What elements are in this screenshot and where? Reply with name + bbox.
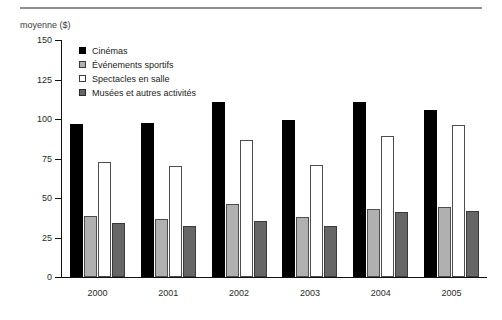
- x-axis-line: [61, 277, 487, 278]
- y-axis-tick-label-text: 0: [22, 273, 52, 282]
- y-axis-tick-label: 25: [18, 234, 52, 243]
- y-axis-tick-mark: [55, 80, 62, 81]
- y-axis-unit-caption: moyenne ($): [20, 20, 71, 30]
- y-axis-tick-label: 75: [18, 155, 52, 164]
- bar: [452, 125, 465, 277]
- x-axis-tick-label: 2002: [214, 288, 264, 298]
- y-axis-tick-label: 100: [18, 115, 52, 124]
- bar: [70, 124, 83, 277]
- x-axis-tick-label: 2004: [356, 288, 406, 298]
- legend-swatch-icon: [79, 75, 86, 82]
- bar: [155, 219, 168, 277]
- y-axis-tick-mark: [55, 119, 62, 120]
- y-axis-tick-label: 0: [18, 273, 52, 282]
- bar: [98, 162, 111, 277]
- bar: [254, 221, 267, 277]
- legend-swatch-icon: [79, 61, 86, 68]
- bar: [310, 165, 323, 277]
- legend-item-label: Événements sportifs: [92, 60, 174, 70]
- legend-item: Spectacles en salle: [79, 72, 196, 85]
- y-axis-tick-label-text: 50: [22, 194, 52, 203]
- y-axis-tick-mark: [55, 238, 62, 239]
- legend-item: Cinémas: [79, 44, 196, 57]
- y-axis-tick-label: 150: [18, 36, 52, 45]
- legend-item: Événements sportifs: [79, 58, 196, 71]
- legend-item: Musées et autres activités: [79, 86, 196, 99]
- bar: [169, 166, 182, 277]
- bar: [395, 212, 408, 277]
- bar: [296, 217, 309, 277]
- legend-item-label: Cinémas: [92, 46, 128, 56]
- y-axis-tick-label-text: 100: [22, 115, 52, 124]
- y-axis-tick-label-text: 125: [22, 76, 52, 85]
- chart-figure: moyenne ($) 0255075100125150 20002001200…: [0, 0, 502, 320]
- y-axis-tick-label-text: 25: [22, 234, 52, 243]
- y-axis-tick-mark: [55, 277, 62, 278]
- chart-legend: CinémasÉvénements sportifsSpectacles en …: [79, 44, 196, 100]
- bar: [84, 216, 97, 277]
- bar: [240, 140, 253, 277]
- bar: [112, 223, 125, 277]
- bar: [212, 102, 225, 277]
- bar: [424, 110, 437, 277]
- x-axis-tick-label: 2003: [285, 288, 335, 298]
- y-axis-tick-mark: [55, 40, 62, 41]
- y-axis-tick-label-text: 75: [22, 155, 52, 164]
- bar: [282, 120, 295, 277]
- y-axis-tick-mark: [55, 159, 62, 160]
- bar: [466, 211, 479, 277]
- bar: [141, 123, 154, 277]
- bar: [183, 226, 196, 277]
- x-axis-tick-label: 2001: [143, 288, 193, 298]
- legend-swatch-icon: [79, 47, 86, 54]
- top-divider-rule: [20, 7, 482, 9]
- bar: [353, 102, 366, 277]
- bar: [226, 204, 239, 277]
- y-axis-tick-mark: [55, 198, 62, 199]
- bar: [438, 207, 451, 277]
- bar: [367, 209, 380, 277]
- y-axis-tick-label: 125: [18, 76, 52, 85]
- legend-item-label: Musées et autres activités: [92, 88, 196, 98]
- x-axis-tick-label: 2000: [72, 288, 122, 298]
- x-axis-tick-label: 2005: [427, 288, 477, 298]
- legend-swatch-icon: [79, 89, 86, 96]
- bar: [324, 226, 337, 277]
- y-axis-tick-label-text: 150: [22, 36, 52, 45]
- bar: [381, 136, 394, 277]
- y-axis-tick-label: 50: [18, 194, 52, 203]
- legend-item-label: Spectacles en salle: [92, 74, 170, 84]
